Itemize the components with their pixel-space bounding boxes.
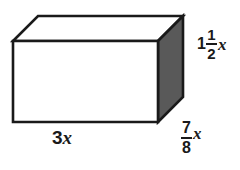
height-denominator: 2 [206,46,216,61]
depth-fraction: 78 [181,120,192,156]
depth-label: 78x [181,120,202,156]
length-variable: x [63,128,73,147]
height-label: 112x [197,27,226,61]
length-coefficient: 3 [52,128,63,147]
prism-drawing [0,0,240,170]
height-whole-number: 1 [197,36,206,52]
rectangular-prism-figure: 3x 112x 78x [0,0,240,170]
prism-top-face [13,16,183,41]
height-fraction: 12 [206,27,217,61]
length-label: 3x [52,128,72,147]
prism-front-face [13,41,158,122]
height-variable: x [218,36,227,53]
height-numerator: 1 [206,27,216,42]
depth-numerator: 7 [181,120,192,136]
depth-variable: x [193,125,202,142]
depth-denominator: 8 [181,140,192,156]
